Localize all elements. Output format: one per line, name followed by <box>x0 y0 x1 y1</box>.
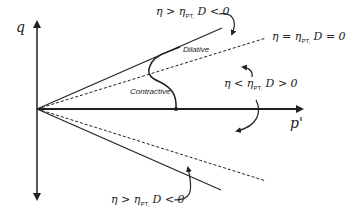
q-axis-label: q <box>16 20 25 34</box>
arrow-middle <box>243 67 252 77</box>
upper-solid-line <box>37 28 222 109</box>
annotation-middle-eta: η < η <box>224 77 253 90</box>
dilative-label: Dilative <box>183 46 209 54</box>
annotation-upper-top-d: D < 0 <box>194 5 230 18</box>
start-point <box>174 107 178 111</box>
annotation-lower: η > ηPT, D < 0 <box>111 194 185 207</box>
annotation-phase-line: η = ηPT, D = 0 <box>272 31 346 44</box>
contractive-label: Contractive <box>130 88 170 96</box>
annotation-middle: η < ηPT, D > 0 <box>224 78 298 91</box>
lower-solid-line <box>37 109 221 190</box>
arrow-lower-right <box>237 100 259 131</box>
annotation-middle-d: D > 0 <box>262 77 298 90</box>
annotation-phase-sub: PT, <box>301 38 310 44</box>
annotation-phase-d: D = 0 <box>310 30 346 43</box>
annotation-phase-eta: η = η <box>272 30 301 43</box>
annotation-lower-d: D < 0 <box>149 193 185 206</box>
upper-dashed-line <box>37 38 266 109</box>
lower-dashed-line <box>37 109 266 181</box>
annotation-lower-eta: η > η <box>111 193 140 206</box>
p-axis-label: p' <box>290 116 303 130</box>
annotation-middle-sub: PT, <box>253 85 262 91</box>
stress-path-curve <box>149 47 180 109</box>
annotation-upper-top: η > ηPT, D < 0 <box>156 6 230 19</box>
annotation-upper-top-eta: η > η <box>156 5 185 18</box>
annotation-upper-top-sub: PT, <box>185 13 194 19</box>
annotation-lower-sub: PT, <box>140 201 149 207</box>
